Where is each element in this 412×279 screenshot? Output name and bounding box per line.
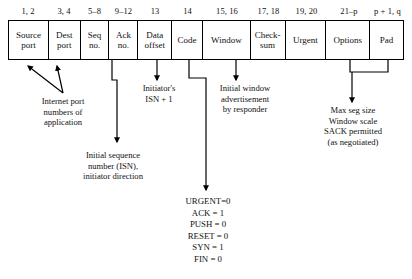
- code-flag-line: SYN = 1: [150, 242, 266, 254]
- code-flag-line: PUSH = 0: [150, 219, 266, 231]
- tcp-header-diagram: 1, 23, 45–89–12131415, 1617, 1819, 2021–…: [0, 0, 412, 279]
- header-field-box: Data offset: [138, 21, 172, 59]
- tcp-header-field-row: Source portDest portSeq no.Ack no.Data o…: [8, 20, 404, 60]
- annotation-options-negotiated: Max seg size Window scale SACK permitted…: [300, 105, 406, 147]
- byte-offset-ruler: 1, 23, 45–89–12131415, 1617, 1819, 2021–…: [8, 4, 404, 20]
- byte-offset-label: 15, 16: [203, 4, 251, 20]
- header-field-box: Urgent: [286, 21, 327, 59]
- code-flag-line: ACK = 1: [150, 208, 266, 220]
- annotation-port-numbers: Internet port numbers of application: [8, 96, 118, 128]
- code-flag-line: FIN = 0: [150, 254, 266, 266]
- header-field-box: Seq no.: [81, 21, 110, 59]
- header-field-box: Ack no.: [109, 21, 138, 59]
- header-field-box: Code: [172, 21, 203, 59]
- annotation-initial-window: Initial window advertisement by responde…: [196, 83, 294, 115]
- byte-offset-label: p + 1, q: [371, 4, 404, 20]
- header-field-box: Source port: [9, 21, 49, 59]
- header-field-box: Window: [203, 21, 251, 59]
- byte-offset-label: 9–12: [109, 4, 138, 20]
- byte-offset-label: 5–8: [80, 4, 109, 20]
- header-field-box: Options: [326, 21, 370, 59]
- annotation-code-flags: URGENT=0ACK = 1PUSH = 0RESET = 0SYN = 1F…: [150, 196, 266, 266]
- byte-offset-label: 19, 20: [286, 4, 327, 20]
- byte-offset-label: 17, 18: [251, 4, 286, 20]
- code-flag-line: RESET = 0: [150, 231, 266, 243]
- byte-offset-label: 3, 4: [48, 4, 80, 20]
- byte-offset-label: 21–p: [327, 4, 371, 20]
- header-field-box: Check- sum: [251, 21, 286, 59]
- annotation-isn-plus-one: Initiator's ISN + 1: [126, 83, 192, 104]
- code-flag-line: URGENT=0: [150, 196, 266, 208]
- header-field-box: Dest port: [49, 21, 81, 59]
- byte-offset-label: 14: [172, 4, 203, 20]
- byte-offset-label: 13: [138, 4, 172, 20]
- header-field-box: Pad: [370, 21, 403, 59]
- annotation-initial-sequence-number: Initial sequence number (ISN), initiator…: [52, 150, 174, 182]
- byte-offset-label: 1, 2: [8, 4, 48, 20]
